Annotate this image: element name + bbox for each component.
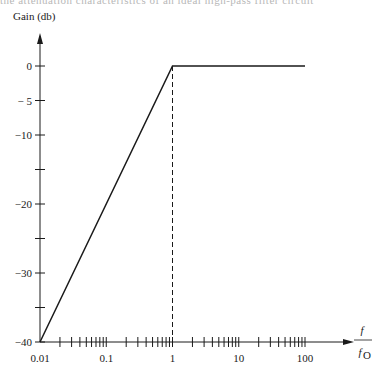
y-tick-label: 0 bbox=[27, 60, 33, 72]
x-tick-label: 1 bbox=[170, 352, 176, 364]
x-axis-label: ffO bbox=[354, 324, 372, 361]
x-tick-label: 10 bbox=[233, 352, 245, 364]
x-tick-label: 100 bbox=[297, 352, 314, 364]
x-tick-label: 0.1 bbox=[99, 352, 113, 364]
y-tick-label: −30 bbox=[15, 267, 33, 279]
y-tick-label: −20 bbox=[15, 198, 33, 210]
y-tick-label: −10 bbox=[15, 129, 33, 141]
x-label-subscript: O bbox=[363, 349, 371, 361]
x-tick-label: 0.01 bbox=[30, 352, 49, 364]
chart-canvas: 0− 5−10−20−30−40 0.010.1110100 ffO bbox=[0, 0, 376, 372]
x-label-numerator: f bbox=[360, 324, 365, 336]
axes bbox=[37, 33, 354, 345]
y-axis-arrow-icon bbox=[37, 33, 43, 44]
x-axis-arrow-icon bbox=[343, 339, 354, 345]
y-tick-label: − 5 bbox=[18, 95, 33, 107]
y-tick-label: −40 bbox=[15, 336, 33, 348]
